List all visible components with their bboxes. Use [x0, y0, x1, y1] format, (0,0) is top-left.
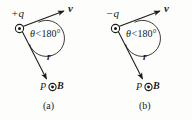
angle-value-a: 180°: [42, 28, 61, 39]
charge-marker-dot-b: [114, 27, 117, 30]
panel-caption-a: (a): [43, 101, 54, 111]
charge-label-b: −q: [106, 8, 119, 19]
angle-value-b: 180°: [138, 28, 157, 39]
field-marker-dot-a: [51, 86, 54, 89]
angle-relation-a: <: [35, 28, 42, 39]
physics-figure: +q v θ<180° r P B (a): [0, 0, 192, 120]
figure-panel-b: −q v θ<180° r P B (b): [96, 0, 192, 120]
field-point-label-a: P: [40, 82, 46, 92]
figure-panel-a: +q v θ<180° r P B (a): [0, 0, 96, 120]
velocity-label-b: v: [164, 3, 169, 14]
field-marker-dot-b: [147, 86, 150, 89]
charge-marker-dot-a: [18, 27, 21, 30]
field-label-b: B: [153, 81, 160, 91]
field-point-label-b: P: [136, 82, 142, 92]
radius-label-b: r: [143, 52, 147, 62]
charge-label-a: +q: [11, 8, 24, 19]
angle-relation-b: <: [131, 28, 138, 39]
angle-label-a: θ<180°: [30, 29, 61, 39]
velocity-label-a: v: [68, 3, 73, 14]
radius-label-a: r: [47, 52, 51, 62]
panel-caption-b: (b): [139, 101, 151, 111]
angle-label-b: θ<180°: [126, 29, 157, 39]
field-label-a: B: [57, 81, 64, 91]
